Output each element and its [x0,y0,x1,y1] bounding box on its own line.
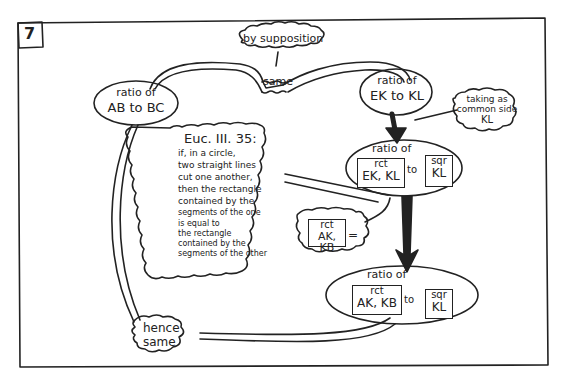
hence-same-line2: same [143,336,180,348]
euclid-line: segments of the other [178,250,288,258]
rct-ak-kb-side-line1: rct [309,220,345,231]
rct-ak-kb-line1: rct [353,286,401,297]
arrow-to-final-ratio [396,196,418,272]
rct-ek-kl-line1: rct [358,159,404,170]
ratio-ak-kb-to: to [404,295,414,305]
same-top-label: same [263,76,293,87]
sqr-kl-bottom-line2: KL [426,301,452,314]
euclid-line: contained by the [178,197,288,206]
sqr-kl-bottom-line1: sqr [426,290,452,301]
ratio-ek-kl-line1: ratio of [362,75,432,86]
taking-as-line1: taking as [452,95,522,104]
sqr-kl-top-line2: KL [426,167,452,180]
equals-sign: = [348,229,358,241]
euclid-line: the rectangle [178,230,288,238]
connector-final-to-hence [200,324,395,342]
ratio-ab-bc-node: ratio of AB to BC [98,87,174,114]
ratio-rct-ak-kb-title: ratio of [367,269,406,280]
euclid-title: Euc. III. 35: [184,132,288,145]
euclid-line: contained by the [178,240,288,248]
euclid-line: if, in a circle, [178,149,288,158]
sqr-kl-box-top: sqr KL [425,155,453,187]
taking-as-line2: common side [452,105,522,114]
euclid-line: then the rectangle [178,185,288,194]
rct-ak-kb-box-side: rct AK, KB [308,219,346,247]
hence-same-line1: hence [143,322,180,334]
sqr-kl-top-line1: sqr [426,156,452,167]
ratio-ek-kl-to: to [407,165,417,175]
euclid-node: Euc. III. 35: if, in a circle, two strai… [178,132,288,258]
rct-ak-kb-line2: AK, KB [353,297,401,310]
ratio-ab-bc-line1: ratio of [98,87,174,98]
ratio-ek-kl-line2: EK to KL [362,89,432,102]
rct-ak-kb-side-line2: AK, KB [309,231,345,254]
rct-ak-kb-box: rct AK, KB [352,285,402,315]
connector-ab-to-hence [120,125,140,320]
euclid-line: segments of the one [178,209,288,217]
ratio-rct-ek-kl-title: ratio of [372,143,411,154]
panel-number: 7 [24,26,35,42]
euclid-line: is equal to [178,220,288,228]
hence-same-node: hence same [143,322,180,348]
ratio-ab-bc-line2: AB to BC [98,101,174,114]
sqr-kl-box-bottom: sqr KL [425,289,453,319]
taking-as-node: taking as common side KL [452,95,522,125]
ratio-ek-kl-node: ratio of EK to KL [362,75,432,102]
taking-as-line3: KL [452,115,522,125]
euclid-line: two straight lines [178,161,288,170]
by-supposition-label: by supposition [243,33,323,44]
rct-ek-kl-box: rct EK, KL [357,158,405,188]
euclid-line: cut one another, [178,173,288,182]
rct-ek-kl-line2: EK, KL [358,170,404,183]
